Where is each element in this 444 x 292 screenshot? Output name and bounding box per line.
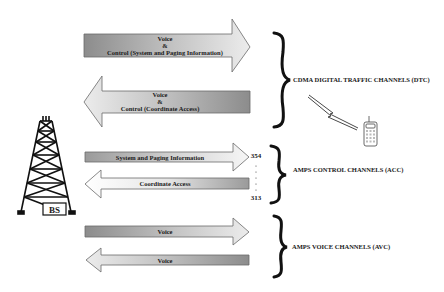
base-station-label: BS <box>49 205 60 215</box>
dtc-brace <box>274 33 290 127</box>
avc-forward-label: Voice <box>158 228 173 235</box>
dtc-reverse-arrow: Voice & Control (Coordinate Access) <box>84 76 250 127</box>
lightning-bolt-icon <box>308 95 358 130</box>
channel-range-bottom: 313 <box>251 194 262 202</box>
base-station-tower-icon <box>18 116 75 214</box>
dtc-forward-line-1: Voice <box>158 35 173 42</box>
avc-reverse-label: Voice <box>158 257 173 264</box>
acc-forward-label: System and Paging Information <box>116 154 205 161</box>
mobile-phone-icon <box>364 116 377 146</box>
dtc-reverse-line-2: & <box>157 98 163 105</box>
dtc-reverse-line-3: Control (Coordinate Access) <box>121 105 200 113</box>
acc-channel-range: 354 313 <box>251 152 262 202</box>
acc-reverse-label: Coordinate Access <box>139 180 191 187</box>
acc-group-label: AMPS CONTROL CHANNELS (ACC) <box>293 166 403 174</box>
avc-forward-arrow: Voice <box>85 218 249 245</box>
acc-reverse-arrow: Coordinate Access <box>85 170 249 198</box>
diagram-canvas: BS Voice & Control (System and Paging In… <box>0 0 444 292</box>
dtc-reverse-line-1: Voice <box>153 91 168 98</box>
dtc-forward-arrow: Voice & Control (System and Paging Infor… <box>84 19 250 72</box>
acc-brace <box>271 146 286 203</box>
base-station-box: BS <box>43 203 66 215</box>
avc-brace <box>274 216 287 277</box>
dtc-forward-line-2: & <box>162 42 168 49</box>
avc-reverse-arrow: Voice <box>86 248 249 272</box>
acc-forward-arrow: System and Paging Information <box>85 143 249 171</box>
channel-range-top: 354 <box>251 152 262 160</box>
avc-group-label: AMPS VOICE CHANNELS (AVC) <box>292 243 390 251</box>
dtc-forward-line-3: Control (System and Paging Information) <box>107 49 223 57</box>
dtc-group-label: CDMA DIGITAL TRAFFIC CHANNELS (DTC) <box>293 76 430 84</box>
